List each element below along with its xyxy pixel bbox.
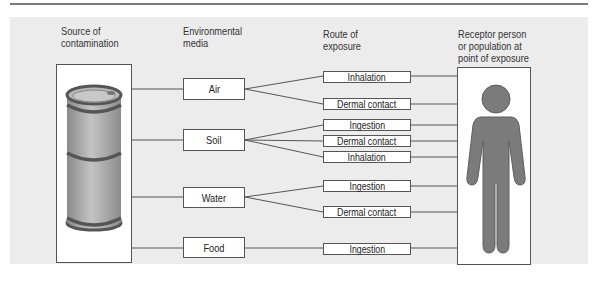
route-air-dermal: Dermal contact	[323, 98, 411, 110]
route-label: Ingestion	[349, 181, 385, 192]
route-label: Ingestion	[349, 244, 385, 255]
route-soil-ingestion: Ingestion	[323, 119, 411, 131]
media-label: Food	[203, 242, 224, 254]
route-water-dermal: Dermal contact	[323, 206, 411, 218]
route-label: Inhalation	[348, 152, 386, 163]
media-soil: Soil	[183, 129, 245, 151]
route-soil-inhalation: Inhalation	[323, 151, 411, 163]
source-box	[56, 64, 132, 263]
route-label: Inhalation	[348, 72, 386, 83]
route-label: Dermal contact	[337, 207, 396, 218]
media-food: Food	[183, 237, 245, 258]
oil-drum-icon	[63, 75, 125, 245]
route-air-inhalation: Inhalation	[323, 71, 411, 83]
route-label: Ingestion	[349, 120, 385, 131]
route-soil-dermal: Dermal contact	[323, 135, 411, 147]
route-label: Dermal contact	[337, 99, 396, 110]
media-label: Air	[208, 83, 219, 95]
media-label: Water	[202, 192, 226, 204]
person-silhouette-icon	[459, 73, 529, 263]
media-label: Soil	[206, 134, 221, 146]
media-air: Air	[183, 78, 245, 100]
route-label: Dermal contact	[337, 136, 396, 147]
receptor-box	[457, 67, 531, 265]
route-water-ingestion: Ingestion	[323, 180, 411, 192]
route-food-ingestion: Ingestion	[323, 243, 411, 255]
media-water: Water	[183, 187, 245, 208]
